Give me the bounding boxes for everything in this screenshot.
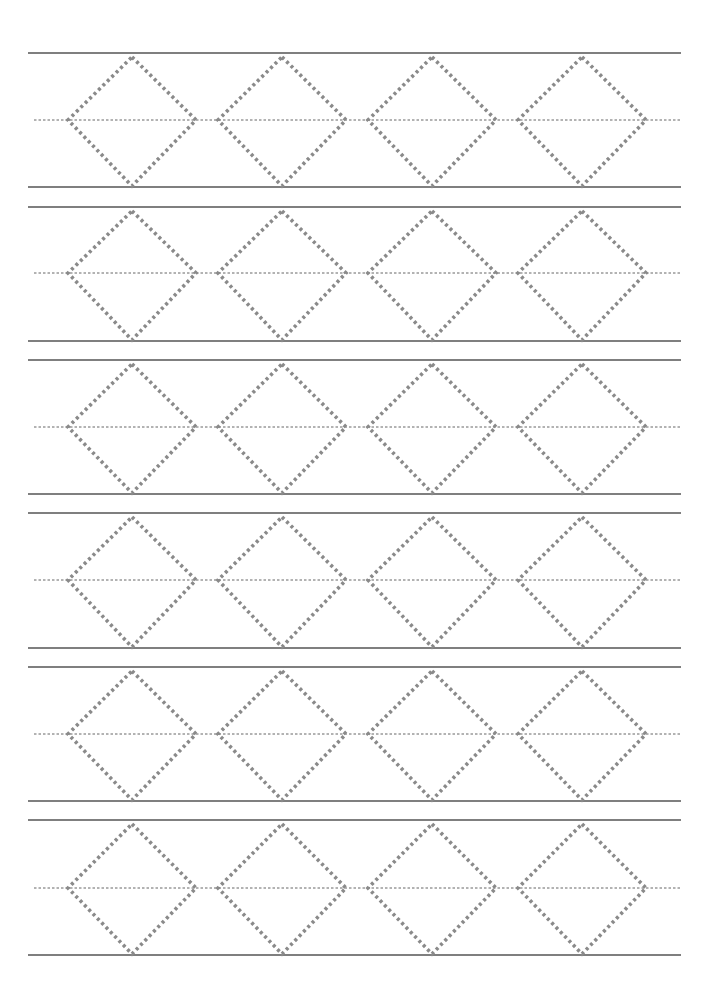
dotted-diamond-shape [218,364,346,493]
dotted-diamond-shape [368,824,496,954]
dotted-diamond-shape [518,517,646,647]
dotted-diamond-shape [68,211,196,340]
worksheet-row [28,820,681,955]
dotted-diamond-shape [518,824,646,954]
dotted-diamond-shape [218,211,346,340]
dotted-diamond-shape [218,517,346,647]
dotted-diamond-shape [518,364,646,493]
dotted-diamond-shape [368,57,496,186]
worksheet-row [28,360,681,494]
dotted-diamond-shape [218,57,346,186]
tracing-worksheet [0,0,713,997]
dotted-diamond-shape [368,364,496,493]
dotted-diamond-shape [518,57,646,186]
dotted-diamond-shape [68,671,196,800]
worksheet-row [28,513,681,648]
dotted-diamond-shape [218,671,346,800]
worksheet-row [28,667,681,801]
worksheet-row [28,207,681,341]
dotted-diamond-shape [218,824,346,954]
dotted-diamond-shape [368,211,496,340]
dotted-diamond-shape [518,671,646,800]
dotted-diamond-shape [68,824,196,954]
dotted-diamond-shape [368,671,496,800]
dotted-diamond-shape [68,57,196,186]
dotted-diamond-shape [368,517,496,647]
dotted-diamond-shape [68,517,196,647]
dotted-diamond-shape [518,211,646,340]
dotted-diamond-shape [68,364,196,493]
worksheet-row [28,53,681,187]
